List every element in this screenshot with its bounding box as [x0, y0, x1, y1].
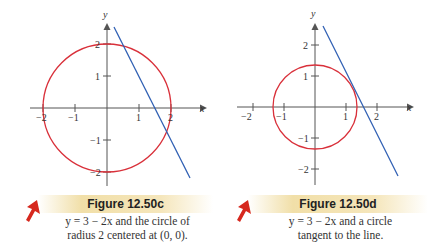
- line-y-3-minus-2x: [114, 27, 190, 178]
- x-axis-label: x: [199, 103, 205, 114]
- caption-line-2: radius 2 centered at (0, 0).: [40, 228, 215, 242]
- x-axis-label: x: [406, 102, 412, 113]
- figure-caption: y = 3 − 2x and the circle of radius 2 ce…: [40, 214, 215, 242]
- figure-title: Figure 12.50d: [248, 197, 428, 211]
- y-tick-2: 2: [95, 39, 100, 50]
- x-tick-2: 2: [168, 112, 173, 123]
- figure-caption: y = 3 − 2x and a circle tangent to the l…: [253, 214, 428, 242]
- caption-line-1: y = 3 − 2x and a circle: [253, 214, 428, 228]
- figure-12-50c: y x −2 −1 1 2 2 1 −1 −2 Figure 12.50c y …: [0, 0, 215, 251]
- y-axis-label: y: [102, 9, 108, 20]
- y-axis-arrow-icon: [104, 23, 111, 30]
- x-tick-neg2: −2: [241, 111, 252, 122]
- y-tick-1: 1: [95, 71, 100, 82]
- x-tick-1: 1: [343, 111, 348, 122]
- y-axis-label: y: [310, 8, 316, 19]
- y-axis-arrow-icon: [312, 23, 319, 30]
- x-tick-1: 1: [136, 112, 141, 123]
- line-y-3-minus-2x: [323, 26, 398, 176]
- y-tick-1: 1: [303, 71, 308, 82]
- plot-12-50d: y x −2 −1 1 2 2 1 −1 −2: [215, 0, 430, 190]
- x-tick-neg1: −1: [276, 111, 287, 122]
- x-tick-neg2: −2: [36, 112, 47, 123]
- y-tick-neg1: −1: [90, 135, 101, 146]
- plot-12-50c: y x −2 −1 1 2 2 1 −1 −2: [0, 0, 215, 190]
- y-tick-neg2: −2: [90, 167, 101, 178]
- x-tick-2: 2: [374, 111, 379, 122]
- y-tick-2: 2: [303, 40, 308, 51]
- caption-band: Figure 12.50d: [248, 195, 428, 213]
- y-tick-neg2: −2: [298, 164, 309, 175]
- caption-band: Figure 12.50c: [38, 195, 213, 213]
- caption-line-2: tangent to the line.: [253, 228, 428, 242]
- x-tick-neg1: −1: [68, 112, 79, 123]
- figure-title: Figure 12.50c: [38, 197, 213, 211]
- caption-line-1: y = 3 − 2x and the circle of: [40, 214, 215, 228]
- y-tick-neg1: −1: [298, 133, 309, 144]
- figure-12-50d: y x −2 −1 1 2 2 1 −1 −2 Figure 12.50d y …: [215, 0, 430, 251]
